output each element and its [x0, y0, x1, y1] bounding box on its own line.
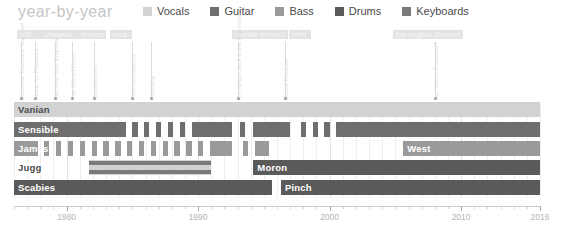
legend-swatch-icon: [402, 7, 411, 16]
bar-segment[interactable]: [115, 141, 120, 156]
bar-segment[interactable]: [186, 141, 191, 156]
axis-tick: [290, 206, 291, 209]
axis-tick: [159, 206, 160, 209]
axis-tick: [198, 206, 199, 211]
legend-item-bass[interactable]: Bass: [275, 5, 313, 17]
axis-tick: [461, 206, 462, 211]
bar-segment[interactable]: [301, 122, 306, 137]
axis-tick: [487, 206, 488, 209]
bar-segment[interactable]: [92, 141, 97, 156]
axis-tick: [172, 206, 173, 209]
legend-item-vocals[interactable]: Vocals: [143, 5, 189, 17]
chart-row-sensible: Sensible: [14, 122, 540, 137]
legend-swatch-icon: [210, 7, 219, 16]
axis-tick: [356, 206, 357, 209]
bar-segment[interactable]: [89, 170, 211, 174]
axis-tick: [40, 206, 41, 209]
legend-swatch-icon: [143, 7, 152, 16]
axis-tick: [80, 206, 81, 209]
axis-tick: [27, 206, 28, 209]
bar-segment[interactable]: [253, 160, 540, 175]
axis-tick: [14, 206, 15, 209]
plot-area: VanianSensibleWestJamesMoronJuggPinchSca…: [14, 102, 540, 198]
axis-tick: [53, 206, 54, 209]
bar-segment[interactable]: [336, 122, 540, 137]
legend-item-guitar[interactable]: Guitar: [210, 5, 254, 17]
bar-segment[interactable]: [313, 122, 318, 137]
bar-segment[interactable]: [156, 122, 161, 137]
axis-tick: [448, 206, 449, 209]
segment-label: West: [403, 141, 430, 156]
bar-segment[interactable]: [103, 141, 108, 156]
bar-segment[interactable]: [240, 122, 245, 137]
axis-tick: [251, 206, 252, 209]
chart-row-james: WestJames: [14, 141, 540, 156]
bar-segment[interactable]: [324, 122, 329, 137]
bar-segment[interactable]: [168, 122, 173, 137]
album-tag[interactable]: mca: [110, 30, 132, 39]
album-dropline: [435, 42, 436, 98]
album-tag[interactable]: the english channel: [393, 30, 463, 39]
bar-segment[interactable]: [243, 141, 248, 156]
bar-segment[interactable]: [210, 141, 232, 156]
bar-segment[interactable]: [180, 122, 185, 137]
bar-segment[interactable]: [127, 141, 132, 156]
album-dropline: [55, 42, 56, 98]
bar-segment[interactable]: [192, 122, 233, 137]
legend-item-drums[interactable]: Drums: [335, 5, 381, 17]
chart-row-vanian: Vanian: [14, 102, 540, 117]
row-label-james: James: [14, 141, 49, 156]
album-dropline: [72, 42, 73, 98]
legend-label: Bass: [289, 5, 313, 17]
axis-tick: [106, 206, 107, 209]
bar-segment[interactable]: [281, 180, 540, 195]
bar-segment[interactable]: [253, 122, 290, 137]
axis-tick-label: 1990: [189, 212, 208, 222]
axis-tick: [146, 206, 147, 209]
bar-segment[interactable]: [255, 141, 269, 156]
axis-tick: [277, 206, 278, 209]
album-tag[interactable]: chiswick: [42, 30, 78, 39]
album-dropline: [94, 42, 95, 98]
axis-tick: [238, 206, 239, 209]
album-tag[interactable]: nitro: [289, 30, 311, 39]
bar-segment[interactable]: [198, 141, 203, 156]
album-marker-dot-icon[interactable]: [284, 97, 287, 100]
axis-tick-label: 2016: [531, 212, 550, 222]
axis-tick: [264, 206, 265, 209]
album-marker-dot-icon[interactable]: [34, 97, 37, 100]
bar-segment[interactable]: [132, 122, 137, 137]
album-marker-dot-icon[interactable]: [150, 97, 153, 100]
bar-segment[interactable]: [139, 141, 144, 156]
album-marker-dot-icon[interactable]: [131, 97, 134, 100]
axis-tick: [409, 206, 410, 209]
axis-tick: [316, 206, 317, 209]
legend: VocalsGuitarBassDrumsKeyboards: [143, 5, 490, 17]
album-tag[interactable]: bronze: [78, 30, 106, 39]
album-dropline: [151, 42, 152, 98]
bar-segment[interactable]: [68, 141, 73, 156]
bar-segment[interactable]: [14, 102, 540, 117]
bar-segment[interactable]: [163, 141, 168, 156]
bar-segment[interactable]: [151, 141, 156, 156]
row-label-jugg: Jugg: [14, 160, 42, 175]
bar-segment[interactable]: [174, 141, 179, 156]
album-marker-dot-icon[interactable]: [93, 97, 96, 100]
album-marker-dot-icon[interactable]: [20, 97, 23, 100]
axis-tick: [303, 206, 304, 209]
bar-segment[interactable]: [80, 141, 85, 156]
album-marker-dot-icon[interactable]: [434, 97, 437, 100]
axis-tick: [343, 206, 344, 209]
segment-label: Pinch: [281, 180, 312, 195]
album-marker-dot-icon[interactable]: [71, 97, 74, 100]
bar-segment[interactable]: [56, 141, 61, 156]
album-marker-dot-icon[interactable]: [54, 97, 57, 100]
legend-item-keyboards[interactable]: Keyboards: [402, 5, 469, 17]
axis-tick: [211, 206, 212, 209]
album-dropline: [238, 42, 239, 98]
bar-segment[interactable]: [89, 161, 211, 165]
album-marker-dot-icon[interactable]: [237, 97, 240, 100]
bar-segment[interactable]: [144, 122, 149, 137]
chart-row-scabies: PinchScabies: [14, 180, 540, 195]
legend-swatch-icon: [275, 7, 284, 16]
